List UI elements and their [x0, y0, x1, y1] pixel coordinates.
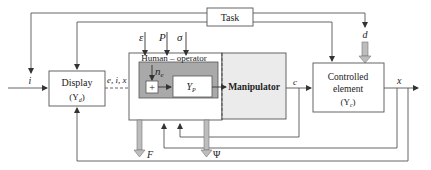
input-i-label: i	[29, 75, 32, 86]
x-label: x	[396, 75, 402, 86]
task-label: Task	[221, 12, 240, 23]
display-label: Display	[61, 77, 92, 88]
controlled-element-transfer-fn: (Yc)	[340, 97, 355, 108]
f-label: F	[146, 149, 154, 160]
psi-output-arrow	[201, 120, 212, 157]
display-block: Display (Yd)	[49, 71, 105, 106]
f-output-arrow	[134, 120, 145, 157]
d-label: d	[363, 29, 369, 40]
svg-text:+: +	[149, 82, 155, 93]
display-transfer-fn: (Yd)	[69, 92, 85, 103]
controlled-element-block: Controlled element (Yc)	[313, 63, 384, 112]
manipulator-block: Manipulator	[222, 53, 286, 120]
sigma-label: σ	[177, 31, 183, 43]
svg-text:Controlled: Controlled	[328, 72, 369, 82]
manipulator-label: Manipulator	[228, 82, 281, 92]
block-diagram: Task i Display (Yd) e, i, x Human – oper…	[0, 0, 431, 170]
svg-text:element: element	[333, 84, 363, 94]
task-block: Task	[207, 8, 253, 26]
p-label: P	[158, 31, 166, 43]
disturbance-d-arrow	[359, 42, 371, 63]
c-label: c	[293, 77, 297, 87]
summer-block: +	[146, 81, 158, 93]
human-operator-label: Human – operator	[141, 53, 206, 63]
yp-block: YP	[173, 76, 212, 97]
epsilon-label: ε	[139, 31, 144, 43]
display-output-label: e, i, x	[107, 75, 127, 85]
psi-label: Ψ	[213, 149, 221, 160]
